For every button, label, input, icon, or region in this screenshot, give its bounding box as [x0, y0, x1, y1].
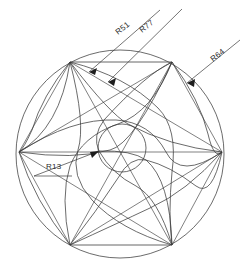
spiral-arc-8 [19, 120, 222, 166]
hexagon-edge-lower-left [19, 152, 70, 245]
cad-drawing-canvas: R51 R77 R64 R13 [0, 0, 242, 280]
dimension-label-r13: R13 [46, 162, 62, 171]
arrowhead-r77 [108, 78, 116, 86]
dimension-label-r77: R77 [138, 18, 156, 35]
hexagon-edge-upper-left [19, 62, 70, 152]
arrowhead-r13 [90, 151, 99, 158]
spiral-arc-5 [70, 159, 146, 245]
hexagon-edge-upper-right [172, 62, 222, 152]
hexagon-chords [19, 62, 222, 245]
hexagon-edge-lower-right [172, 152, 222, 245]
dimension-r64[interactable]: R64 [187, 40, 240, 87]
spiral-arc-9 [65, 62, 172, 245]
dimension-r77[interactable]: R77 [108, 9, 182, 86]
inner-circle [98, 124, 146, 172]
diagonal-r-bl [70, 152, 222, 245]
diagonal-tl-r [70, 62, 222, 152]
geometric-construction-drawing: R51 R77 R64 R13 [0, 0, 242, 280]
construction-diagonals [19, 62, 222, 245]
diagonal-l-br [19, 152, 172, 245]
dimension-label-r51: R51 [114, 20, 132, 37]
dimension-label-r64: R64 [209, 47, 227, 64]
spiral-arc-set [19, 62, 222, 245]
spiral-arc-15 [146, 152, 222, 188]
